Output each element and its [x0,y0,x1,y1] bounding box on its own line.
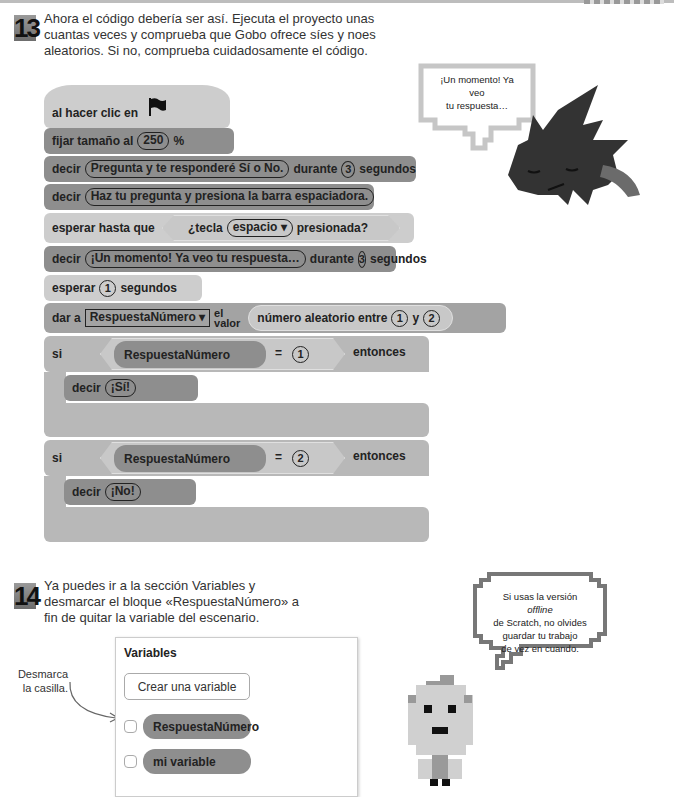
set-variable-block[interactable]: dar a RespuestaNúmero ▾ el valor número … [44,303,506,333]
bubble-tip-line2: de Scratch, no olvides [490,616,590,629]
and-label: y [412,311,419,325]
bubble-tip-offline: offline [527,604,552,615]
green-flag-icon [148,97,166,117]
set-var-label: dar a [52,311,81,325]
when-flag-clicked-block[interactable]: al hacer clic en [44,85,230,128]
random-label: número aleatorio entre [257,311,387,325]
checkbox-respuestanumero[interactable] [124,720,137,733]
percent-label: % [173,134,184,148]
random-from-input[interactable]: 1 [391,310,408,327]
say-label: decir [52,190,81,204]
secs-input[interactable]: 3 [341,161,355,178]
seconds-label: segundos [359,162,416,176]
step-13-text: Ahora el código debería ser así. Ejecuta… [44,11,384,59]
bubble-tip-line1: Si usas la versión offline [490,590,590,616]
say-label: decir [72,485,101,499]
say-message-input[interactable]: ¡Sí! [105,379,136,397]
say-message-input[interactable]: Pregunta y te responderé Sí o No. [85,160,290,178]
variable-mi-variable[interactable]: mi variable [143,749,251,774]
key-value: espacio [233,220,278,234]
say-block-2[interactable]: decir Haz tu pregunta y presiona la barr… [44,184,374,210]
pixel-character [408,675,473,786]
key-pressed-pre: ¿tecla [188,221,223,235]
variable-reporter[interactable]: RespuestaNúmero [114,445,266,472]
say-message-input[interactable]: ¡Un momento! Ya veo tu respuesta… [85,250,306,268]
wait-secs-input[interactable]: 1 [99,280,116,297]
say-label: decir [52,162,81,176]
say-message-input[interactable]: ¡No! [105,483,141,501]
top-rule [0,0,674,3]
key-pressed-post: presionada? [297,221,368,235]
gobo-character [498,85,648,205]
step-14-text: Ya puedes ir a la sección Variables y de… [44,578,304,626]
annotation-line2: la casilla. [14,681,68,695]
seconds-label: segundos [370,252,427,266]
during-label: durante [310,252,354,266]
equals-value-input[interactable]: 1 [292,346,309,363]
create-variable-button[interactable]: Crear una variable [124,673,250,700]
random-to-input[interactable]: 2 [423,310,440,327]
el-valor-label: el valor [214,308,240,328]
if-label: si [52,451,62,465]
hat-label: al hacer clic en [52,106,138,120]
say-for-secs-block-3[interactable]: decir ¡Un momento! Ya veo tu respuesta… … [44,246,396,272]
dropdown-arrow-icon: ▾ [281,220,287,234]
wait-label: esperar [52,281,95,295]
wait-until-label: esperar hasta que [52,221,155,235]
bubble-tip-line3: guardar tu trabajo [490,629,590,642]
wait-secs-block[interactable]: esperar 1 segundos [44,275,202,301]
equals-sign: = [275,346,282,360]
say-for-secs-block-1[interactable]: decir Pregunta y te responderé Sí o No. … [44,156,416,182]
page-header-decoration [584,0,664,4]
step-number-13: 13 [14,15,36,41]
dropdown-arrow-icon: ▾ [199,310,205,324]
if-label: si [52,347,62,361]
secs-input[interactable]: 3 [358,251,366,268]
bubble-tip-line1a: Si usas la versión [503,591,577,602]
size-value-input[interactable]: 250 [137,132,169,150]
checkbox-mi-variable[interactable] [124,755,137,768]
if-2-footer [44,507,429,542]
annotation-text: Desmarca la casilla. [14,667,68,695]
wait-until-block[interactable]: esperar hasta que ¿tecla espacio ▾ presi… [44,213,414,243]
set-size-label: fijar tamaño al [52,134,133,148]
seconds-label: segundos [120,281,177,295]
say-message-input[interactable]: Haz tu pregunta y presiona la barra espa… [85,188,374,206]
key-pressed-content: ¿tecla espacio ▾ presionada? [188,219,368,237]
equals-value-input[interactable]: 2 [292,450,309,467]
key-dropdown[interactable]: espacio ▾ [227,219,293,237]
variable-dropdown[interactable]: RespuestaNúmero ▾ [85,309,210,327]
step-number-14: 14 [14,583,36,609]
say-no-block[interactable]: decir ¡No! [64,479,196,505]
say-yes-block[interactable]: decir ¡Sí! [64,375,198,401]
during-label: durante [293,162,337,176]
annotation-line1: Desmarca [14,667,68,681]
variable-respuestanumero[interactable]: RespuestaNúmero [143,714,251,739]
variable-name: RespuestaNúmero [90,310,196,324]
variables-title: Variables [124,646,177,660]
random-reporter[interactable]: número aleatorio entre 1 y 2 [248,305,453,331]
then-label: entonces [353,449,406,463]
variable-reporter[interactable]: RespuestaNúmero [114,341,266,368]
say-label: decir [52,252,81,266]
valor-label: valor [214,318,240,328]
bubble-tip-text: Si usas la versión offline de Scratch, n… [490,590,590,655]
variables-panel: Variables Crear una variable RespuestaNú… [115,637,358,797]
set-size-block[interactable]: fijar tamaño al 250 % [44,128,234,154]
bubble-tip-line4: de vez en cuando. [490,642,590,655]
equals-sign: = [275,450,282,464]
then-label: entonces [353,345,406,359]
if-1-footer [44,403,429,437]
say-label: decir [72,381,101,395]
